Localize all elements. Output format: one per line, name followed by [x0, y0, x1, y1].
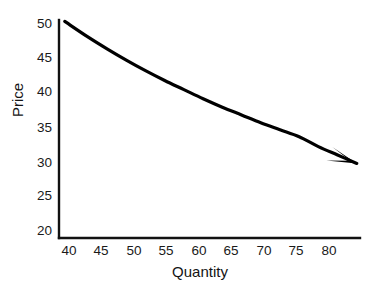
chart-figure: 50 45 40 35 30 25 20 40 45 50 55 60 65 7…	[0, 0, 382, 295]
x-tick-label: 75	[288, 244, 303, 258]
y-axis-title: Price	[10, 83, 25, 117]
x-tick-label: 60	[191, 244, 206, 258]
x-tick-label: 80	[321, 244, 336, 258]
demand-curve-line	[65, 21, 357, 163]
x-tick-label: 50	[126, 244, 141, 258]
x-tick-label: 70	[256, 244, 271, 258]
x-tick-label: 40	[61, 244, 76, 258]
x-tick-label: 45	[93, 244, 108, 258]
y-tick-label: 25	[14, 189, 52, 203]
y-tick-label: 35	[14, 121, 52, 135]
y-tick-label: 45	[14, 51, 52, 65]
y-tick-label: 50	[14, 17, 52, 31]
y-tick-label: 20	[14, 224, 52, 238]
y-tick-label: 30	[14, 156, 52, 170]
x-tick-label: 55	[158, 244, 173, 258]
x-tick-label: 65	[223, 244, 238, 258]
x-axis-title: Quantity	[172, 264, 228, 279]
